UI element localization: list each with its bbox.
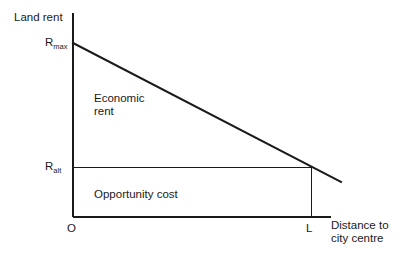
economic-rent-line1: Economic <box>94 92 145 104</box>
ralt-subscript: alt <box>53 166 61 175</box>
rmax-subscript: max <box>53 42 67 51</box>
y-tick-label-rmax: Rmax <box>45 36 67 50</box>
economic-rent-line2: rent <box>94 105 114 117</box>
y-tick-label-ralt: Ralt <box>45 160 61 174</box>
x-axis-label-line1: Distance to <box>331 219 389 231</box>
x-axis-label: Distance tocity centre <box>331 219 389 245</box>
y-axis-label: Land rent <box>14 11 63 24</box>
x-tick-label-l: L <box>306 222 312 235</box>
region-label-economic-rent: Economicrent <box>94 92 145 118</box>
x-axis-label-line2: city centre <box>331 232 383 244</box>
origin-label: O <box>67 222 76 235</box>
region-label-opportunity-cost: Opportunity cost <box>94 188 178 201</box>
bid-rent-diagram: Land rent Rmax Ralt Economicrent Opportu… <box>0 0 403 266</box>
